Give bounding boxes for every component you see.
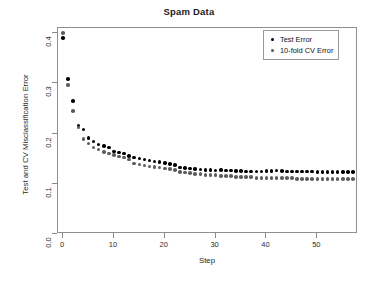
x-axis-tick [62,233,63,238]
data-point [260,170,264,174]
data-point [153,165,157,169]
data-point [193,167,197,171]
data-point [138,163,142,167]
data-point [183,171,187,175]
data-point [265,169,269,173]
x-axis-tick-label: 10 [100,240,126,249]
data-point [163,161,167,165]
data-point [153,160,157,164]
data-point [214,169,218,173]
data-point [132,156,136,160]
data-point [239,169,243,173]
x-axis-tick [265,233,266,238]
data-point [341,177,345,181]
data-point [102,144,106,148]
data-point [132,162,136,166]
data-point [290,176,294,180]
data-point [321,170,325,174]
data-point [178,166,182,170]
y-axis-tick-label: 0.1 [44,181,53,203]
data-point [193,172,197,176]
data-point [331,170,335,174]
data-point [173,168,177,172]
data-point [82,128,86,132]
data-point [321,177,325,181]
data-point [239,175,243,179]
data-point [336,177,340,181]
legend-dot-cv-icon [267,49,278,52]
data-point [249,175,253,179]
data-point [305,170,309,174]
data-point [107,146,111,150]
data-point [61,31,65,35]
data-point [87,136,91,140]
data-point [280,176,284,180]
data-point [199,172,203,176]
data-point [87,142,91,146]
data-point [285,170,289,174]
data-point [148,165,152,169]
data-point [97,148,101,152]
data-point [158,160,162,164]
x-axis-tick-label: 0 [49,240,75,249]
data-point [285,176,289,180]
data-point [234,175,238,179]
data-point [168,167,172,171]
data-point [188,171,192,175]
data-point [295,170,299,174]
data-point [326,177,330,181]
data-point [244,175,248,179]
data-point [199,168,203,172]
data-point [234,169,238,173]
data-point [209,173,213,177]
data-point [214,173,218,177]
data-point [168,162,172,166]
data-point [265,176,269,180]
data-point [229,174,233,178]
data-point [122,156,126,160]
data-point [275,169,279,173]
data-point [310,177,314,181]
legend-label-test-error: Test Error [278,35,312,44]
y-axis-tick-label: 0.2 [44,131,53,153]
data-point [255,170,259,174]
data-point [158,166,162,170]
data-point [219,174,223,178]
data-point [331,177,335,181]
legend-item-cv-error: 10-fold CV Error [267,45,333,56]
chart-figure: Spam Data Test and CV Misclassification … [0,0,378,282]
x-axis-tick [316,233,317,238]
data-point [71,99,75,103]
data-point [173,163,177,167]
y-axis-tick-label: 0.4 [44,31,53,53]
data-point [316,170,320,174]
data-point [341,170,345,174]
data-point [336,170,340,174]
data-point [295,177,299,181]
x-axis-tick [113,233,114,238]
data-point [346,170,350,174]
data-point [107,152,111,156]
data-point [310,170,314,174]
x-axis-tick-label: 20 [151,240,177,249]
data-point [82,137,86,141]
data-point [117,155,121,159]
data-point [290,170,294,174]
data-point [122,152,126,156]
data-point [300,177,304,181]
x-axis-tick [164,233,165,238]
data-point [270,176,274,180]
legend-item-test-error: Test Error [267,34,333,45]
data-point [326,170,330,174]
data-point [61,36,65,40]
data-point [138,157,142,161]
data-point [188,167,192,171]
y-axis-tick [52,233,57,234]
data-point [260,176,264,180]
data-point [92,140,96,144]
legend-label-cv-error: 10-fold CV Error [278,46,333,55]
legend-dot-test-icon [267,38,278,41]
data-point [163,167,167,171]
data-point [255,176,259,180]
data-point [183,166,187,170]
